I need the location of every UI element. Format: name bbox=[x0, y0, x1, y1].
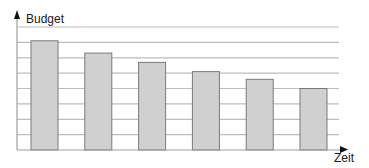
chart-canvas: Budget Zeit bbox=[0, 0, 369, 168]
bar bbox=[246, 79, 273, 150]
gridlines bbox=[17, 27, 339, 135]
bar bbox=[85, 53, 112, 150]
x-axis-label: Zeit bbox=[334, 151, 355, 165]
y-axis-arrow-icon bbox=[14, 10, 20, 19]
bars bbox=[31, 41, 327, 150]
y-axis-label: Budget bbox=[26, 12, 65, 26]
bar bbox=[300, 89, 327, 151]
bar-chart: Budget Zeit bbox=[0, 0, 369, 168]
bar bbox=[31, 41, 58, 150]
bar bbox=[192, 72, 219, 150]
bar bbox=[139, 62, 166, 150]
